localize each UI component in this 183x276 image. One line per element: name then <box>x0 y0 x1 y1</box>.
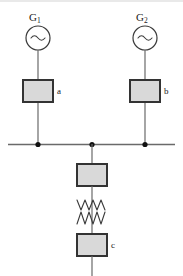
generator-2-label-text: G <box>136 11 144 23</box>
transformer-a-box[interactable] <box>23 80 53 102</box>
generator-1-label-subscript: 1 <box>37 16 41 25</box>
zigzag-reactance-icon[interactable] <box>77 200 105 224</box>
transformer-c-box[interactable] <box>77 234 107 256</box>
transformer-b-label: b <box>164 87 169 96</box>
transformer-a-label: a <box>57 87 61 96</box>
generator-2-branch <box>130 26 160 145</box>
transformer-b-box[interactable] <box>130 80 160 102</box>
bus-node-left <box>35 142 40 147</box>
generator-2-label-subscript: 2 <box>144 16 148 25</box>
generator-2-label: G2 <box>136 12 148 23</box>
feeder-branch <box>77 144 107 276</box>
transformer-mid-box[interactable] <box>77 164 107 186</box>
generator-1-branch <box>23 26 53 145</box>
transformer-c-label: c <box>111 241 115 250</box>
single-line-diagram <box>0 0 183 276</box>
diagram-canvas: G1 G2 a b c <box>0 0 183 276</box>
bus-node-right <box>142 142 147 147</box>
zigzag-row-bottom <box>77 212 105 224</box>
generator-1-label: G1 <box>29 12 41 23</box>
zigzag-row-top <box>77 200 105 210</box>
generator-1-label-text: G <box>29 11 37 23</box>
